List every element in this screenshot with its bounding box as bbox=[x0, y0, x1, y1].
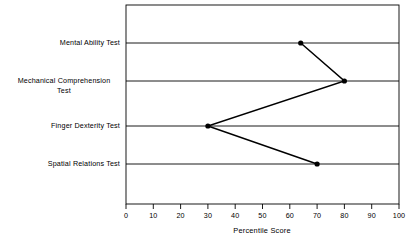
data-point-marker bbox=[298, 40, 303, 45]
x-tick-label-40: 40 bbox=[231, 211, 239, 220]
data-point-marker bbox=[205, 123, 210, 128]
plot-frame bbox=[126, 5, 399, 204]
category-label-spatial-relations: Spatial Relations Test bbox=[8, 159, 120, 169]
x-tick-label-100: 100 bbox=[393, 211, 405, 220]
x-tick-label-70: 70 bbox=[313, 211, 321, 220]
x-axis-title: Percentile Score bbox=[233, 226, 290, 235]
chart-container: Mental Ability Test Mechanical Comprehen… bbox=[0, 0, 420, 243]
x-axis-ticks bbox=[126, 204, 399, 209]
x-tick-label-80: 80 bbox=[340, 211, 348, 220]
x-tick-label-20: 20 bbox=[176, 211, 184, 220]
x-tick-label-10: 10 bbox=[149, 211, 157, 220]
category-label-mental-ability: Mental Ability Test bbox=[8, 38, 120, 48]
data-point-marker bbox=[342, 78, 347, 83]
x-tick-label-30: 30 bbox=[204, 211, 212, 220]
x-tick-label-90: 90 bbox=[368, 211, 376, 220]
x-tick-label-50: 50 bbox=[258, 211, 266, 220]
category-label-finger-dexterity: Finger Dexterity Test bbox=[8, 121, 120, 131]
category-label-mechanical-comprehension: Mechanical Comprehension Test bbox=[8, 76, 120, 95]
x-tick-label-60: 60 bbox=[286, 211, 294, 220]
data-point-marker bbox=[315, 161, 320, 166]
x-tick-label-0: 0 bbox=[124, 211, 128, 220]
